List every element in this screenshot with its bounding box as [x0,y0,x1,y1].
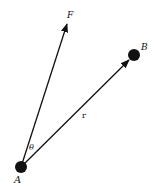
point-a [15,161,27,173]
force-vector-diagram: A B F r θ [0,0,157,186]
label-r: r [82,111,86,120]
vector-r-arrow [21,60,129,167]
label-theta: θ [29,143,34,152]
label-b: B [140,42,148,52]
vector-f-arrow [21,24,67,167]
label-f: F [66,10,74,20]
point-b [128,49,140,61]
label-a: A [13,174,21,185]
